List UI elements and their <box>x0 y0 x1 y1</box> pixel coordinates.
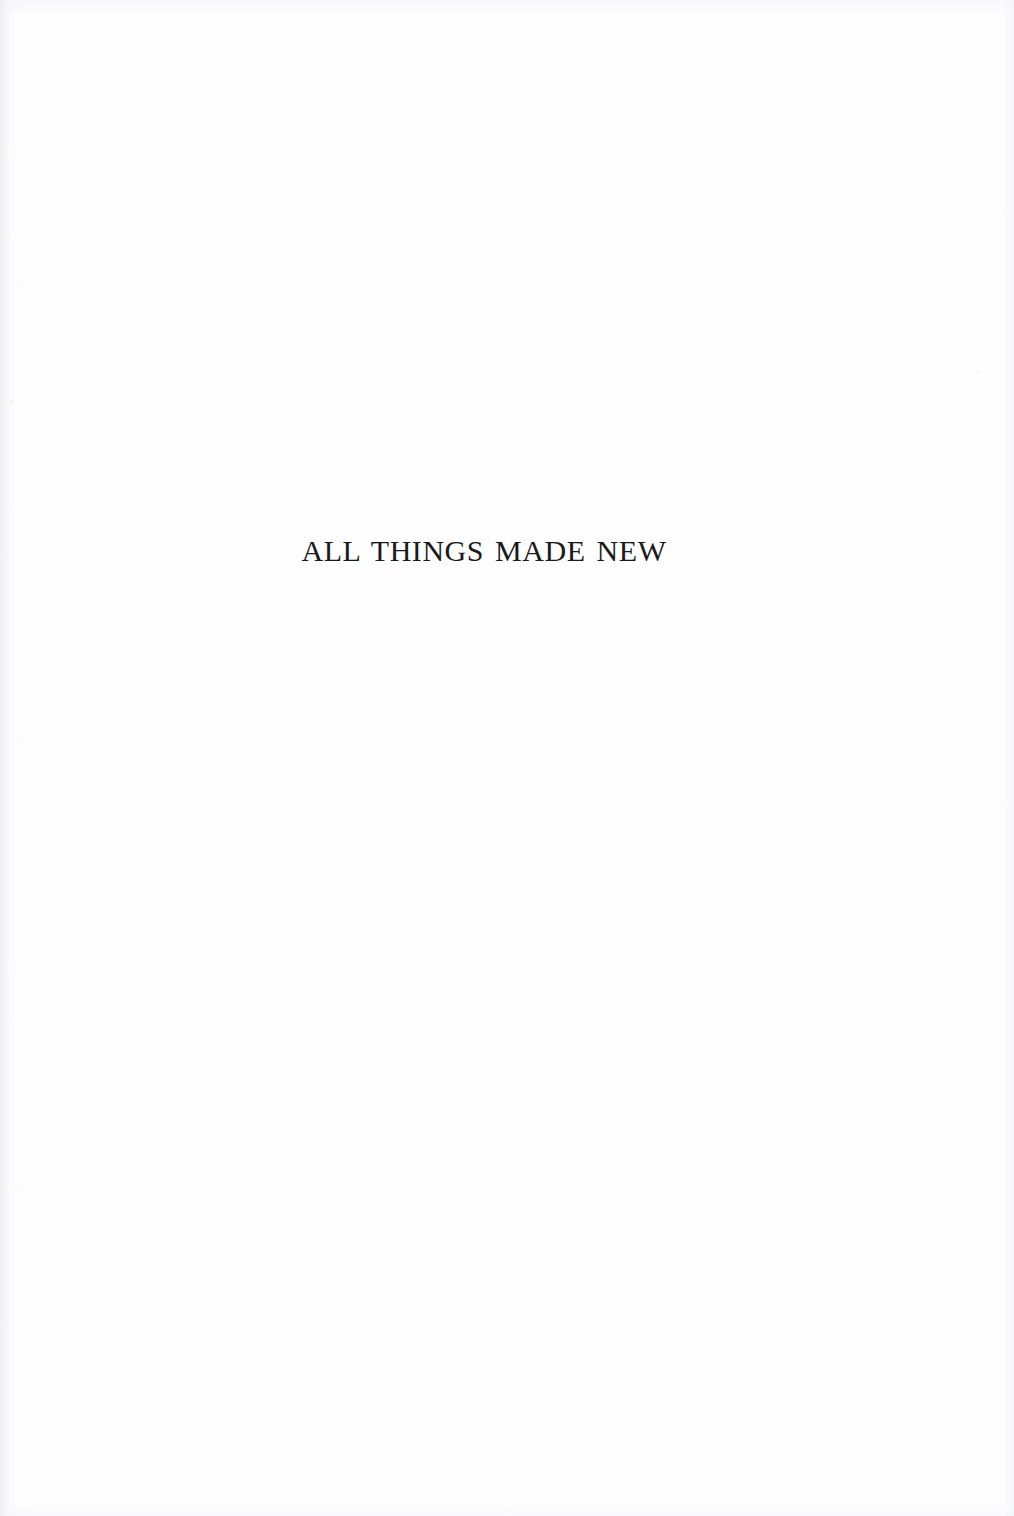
half-title-block: ALL THINGS MADE NEW <box>0 534 968 568</box>
scan-speckle-artifact <box>0 0 1014 1516</box>
scan-edge-left-artifact <box>0 0 26 1516</box>
document-page: ALL THINGS MADE NEW <box>0 0 1014 1516</box>
scan-edge-top-artifact <box>0 0 1014 16</box>
scan-edge-bottom-artifact <box>0 1502 1014 1516</box>
page-title: ALL THINGS MADE NEW <box>0 534 968 568</box>
scan-edge-right-artifact <box>992 0 1014 1516</box>
